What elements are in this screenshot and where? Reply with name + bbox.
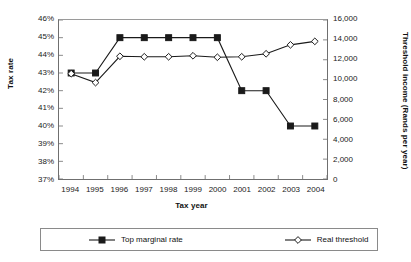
x-tick-label: 1997 <box>135 185 153 194</box>
x-axis-title: Tax year <box>0 201 411 210</box>
y-axis-title-left: Tax rate <box>6 58 20 89</box>
x-tick-label: 2000 <box>209 185 227 194</box>
y-tick-label-left: 41% <box>26 103 54 112</box>
y-tick-label-right: 10,000 <box>333 74 365 83</box>
y-tick-label-left: 44% <box>26 50 54 59</box>
x-tick-label: 1995 <box>86 185 104 194</box>
y-tick-label-left: 37% <box>26 175 54 184</box>
chart-figure: Tax rate Threshold income (Rands per yea… <box>0 0 411 262</box>
y-tick-label-right: 8,000 <box>333 95 365 104</box>
legend-item-label: Real threshold <box>317 235 369 245</box>
legend-item-label: Top marginal rate <box>121 235 183 245</box>
x-tick-label: 2001 <box>233 185 251 194</box>
filled-square-marker-icon <box>87 235 117 245</box>
plot-canvas <box>59 20 327 179</box>
y-tick-label-left: 39% <box>26 139 54 148</box>
y-tick-label-right: 0 <box>333 175 365 184</box>
y-tick-label-left: 46% <box>26 14 54 23</box>
x-tick-label: 2002 <box>258 185 276 194</box>
x-tick-label: 2004 <box>307 185 325 194</box>
y-tick-label-right: 6,000 <box>333 115 365 124</box>
y-tick-label-right: 12,000 <box>333 54 365 63</box>
x-axis-ticks: 1994199519961997199819992000200120022003… <box>58 185 328 197</box>
chart-legend: Top marginal rateReal threshold <box>40 228 378 251</box>
plot-area <box>58 19 328 180</box>
y-tick-label-right: 4,000 <box>333 135 365 144</box>
legend-item-top-marginal-rate[interactable]: Top marginal rate <box>87 235 183 245</box>
y-tick-label-left: 45% <box>26 32 54 41</box>
x-tick-label: 1999 <box>184 185 202 194</box>
x-tick-label: 1994 <box>61 185 79 194</box>
y-tick-label-left: 38% <box>26 157 54 166</box>
y-tick-label-left: 40% <box>26 121 54 130</box>
x-tick-label: 2003 <box>282 185 300 194</box>
x-tick-label: 1998 <box>160 185 178 194</box>
y-axis-ticks-left: 37%38%39%40%41%42%43%44%45%46% <box>22 19 54 180</box>
y-tick-label-left: 43% <box>26 68 54 77</box>
y-tick-label-right: 16,000 <box>333 14 365 23</box>
y-tick-label-right: 2,000 <box>333 155 365 164</box>
series-real-threshold <box>68 38 318 86</box>
y-tick-label-left: 42% <box>26 86 54 95</box>
y-axis-ticks-right: 02,0004,0006,0008,00010,00012,00014,0001… <box>333 19 367 180</box>
x-tick-label: 1996 <box>110 185 128 194</box>
open-diamond-marker-icon <box>283 235 313 245</box>
y-tick-label-right: 14,000 <box>333 34 365 43</box>
y-axis-title-right: Threshold income (Rands per year) <box>388 26 410 176</box>
legend-item-real-threshold[interactable]: Real threshold <box>283 235 369 245</box>
